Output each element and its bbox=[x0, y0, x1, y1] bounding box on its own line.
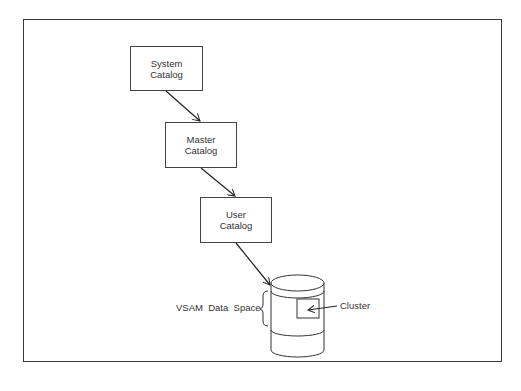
user-catalog-node: User Catalog bbox=[200, 197, 272, 243]
connectors-layer bbox=[0, 0, 521, 391]
node-label-line1: User bbox=[226, 209, 246, 220]
brace-icon bbox=[260, 291, 268, 326]
cluster-label: Cluster bbox=[340, 300, 370, 311]
arrow-system-to-master bbox=[166, 91, 200, 121]
arrow-master-to-user bbox=[201, 168, 235, 196]
system-catalog-node: System Catalog bbox=[130, 46, 203, 91]
node-label-line1: Master bbox=[186, 134, 215, 145]
master-catalog-node: Master Catalog bbox=[165, 122, 237, 168]
node-label-line2: Catalog bbox=[150, 69, 183, 80]
node-label-line2: Catalog bbox=[220, 220, 253, 231]
arrow-user-to-dataspace bbox=[236, 243, 270, 285]
node-label-line1: System bbox=[151, 58, 183, 69]
vsam-data-space-label: VSAM Data Space bbox=[176, 302, 260, 313]
node-label-line2: Catalog bbox=[185, 145, 218, 156]
